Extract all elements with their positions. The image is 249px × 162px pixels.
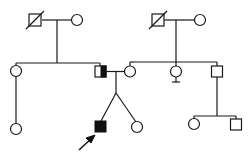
female-III-3 [132,122,143,133]
gen2-right-sibship [125,62,223,116]
twin-line-left [101,93,116,121]
affected-male-proband-III-2 [95,121,106,132]
female-II-3 [125,66,136,77]
female-I-2 [72,15,83,26]
female-III-1 [11,124,22,135]
male-III-5 [231,119,242,130]
twin-line-right [116,93,136,122]
female-I-4 [195,15,206,26]
gen1-right-couple [149,11,206,62]
twin-offspring [95,72,143,133]
female-II-1 [11,66,22,77]
female-III-4 [189,119,200,130]
male-II-5 [212,66,223,77]
female-II-4 [171,66,182,77]
gen3-right-sibship [189,116,242,130]
gen2-left-sibship [11,63,107,135]
half-shading [101,66,106,77]
proband-arrow-icon [79,135,95,150]
pedigree-chart [0,0,249,162]
gen1-left-couple [26,11,83,63]
